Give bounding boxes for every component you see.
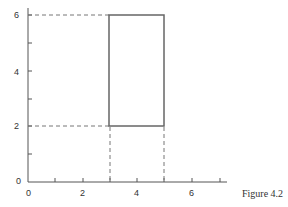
x-tick-label-4: 4 bbox=[134, 188, 139, 198]
y-ticks bbox=[28, 15, 32, 154]
chart: 6 4 2 0 0 2 4 6 bbox=[0, 0, 288, 207]
x-tick-label-0: 0 bbox=[26, 188, 31, 198]
y-tick-label-6: 6 bbox=[14, 10, 19, 20]
y-tick-label-0: 0 bbox=[16, 176, 21, 186]
figure-caption: Figure 4.2 bbox=[242, 188, 283, 199]
y-tick-label-4: 4 bbox=[14, 67, 19, 77]
x-ticks bbox=[55, 178, 220, 182]
x-tick-label-6: 6 bbox=[189, 188, 194, 198]
dashed-guides bbox=[28, 15, 164, 182]
y-tick-label-2: 2 bbox=[14, 121, 19, 131]
x-tick-label-2: 2 bbox=[80, 188, 85, 198]
rectangle-shape bbox=[109, 15, 164, 126]
